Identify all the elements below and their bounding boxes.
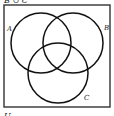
set-b-label: B xyxy=(103,24,109,32)
set-c-label: C xyxy=(84,94,90,102)
top-caption: B ∪ C xyxy=(3,0,28,5)
venn-diagram: B ∪ C A B C U xyxy=(0,0,114,116)
set-a-label: A xyxy=(6,25,12,33)
universe-label: U xyxy=(4,111,11,116)
universe-rect xyxy=(4,5,110,107)
